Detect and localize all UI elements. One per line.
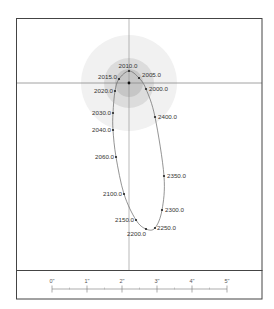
orbit-point: 2100.0 xyxy=(103,190,125,197)
orbit-point-marker xyxy=(123,193,125,195)
orbit-point-marker xyxy=(118,78,120,80)
orbit-point-label: 2350.0 xyxy=(167,172,186,179)
orbit-point-label: 2400.0 xyxy=(158,113,177,120)
orbit-point: 2200.0 xyxy=(127,228,147,237)
orbit-point-marker xyxy=(145,88,147,90)
orbit-point-marker xyxy=(163,175,165,177)
orbit-point-marker xyxy=(161,209,163,211)
orbit-point: 2000.0 xyxy=(145,85,169,92)
orbit-point: 2030.0 xyxy=(92,109,114,116)
orbit-point-marker xyxy=(112,112,114,114)
orbit-point-label: 2020.0 xyxy=(94,87,113,94)
orbit-point-label: 2300.0 xyxy=(165,206,184,213)
orbit-point: 2020.0 xyxy=(94,87,116,94)
orbit-point-label: 2015.0 xyxy=(98,73,117,80)
scale-label: 4" xyxy=(189,278,194,284)
orbit-point-label: 2060.0 xyxy=(95,153,114,160)
orbit-point-marker xyxy=(154,116,156,118)
orbit-point-label: 2150.0 xyxy=(115,216,134,223)
orbit-point: 2400.0 xyxy=(154,113,178,120)
orbit-point: 2150.0 xyxy=(115,216,137,223)
primary-star-marker xyxy=(128,82,131,85)
orbit-point: 2300.0 xyxy=(161,206,185,213)
orbit-point-marker xyxy=(112,129,114,131)
orbit-point: 2350.0 xyxy=(163,172,187,179)
scale-label: 5" xyxy=(224,278,229,284)
orbit-point: 2250.0 xyxy=(154,224,177,231)
scale-label: 1" xyxy=(84,278,89,284)
orbit-point-label: 2040.0 xyxy=(92,126,111,133)
orbit-point-label: 2000.0 xyxy=(149,85,168,92)
orbit-point-marker xyxy=(138,77,140,79)
orbit-point-label: 2010.0 xyxy=(119,62,138,69)
orbit-point: 2015.0 xyxy=(98,73,120,80)
orbit-point-label: 2250.0 xyxy=(157,224,176,231)
orbit-point-marker xyxy=(115,156,117,158)
scale-label: 3" xyxy=(154,278,159,284)
orbit-point: 2040.0 xyxy=(92,126,114,133)
orbit-point-label: 2200.0 xyxy=(127,230,146,237)
orbit-point: 2060.0 xyxy=(95,153,117,160)
scale-label: 0" xyxy=(49,278,54,284)
orbit-point-marker xyxy=(154,227,156,229)
orbit-point-label: 2100.0 xyxy=(103,190,122,197)
orbit-point-marker xyxy=(135,219,137,221)
orbit-diagram: 2000.02005.02010.02015.02020.02030.02040… xyxy=(0,0,274,309)
orbit-point-marker xyxy=(114,90,116,92)
scale-label: 2" xyxy=(119,278,124,284)
orbit-point: 2005.0 xyxy=(138,71,162,79)
orbit-point-marker xyxy=(128,70,130,72)
orbit-point-label: 2005.0 xyxy=(142,71,161,78)
orbit-point-label: 2030.0 xyxy=(92,109,111,116)
